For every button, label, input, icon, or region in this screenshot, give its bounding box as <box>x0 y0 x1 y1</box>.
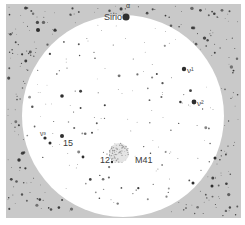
faint-star <box>224 125 225 126</box>
faint-star <box>16 96 17 97</box>
faint-star <box>37 84 38 85</box>
faint-star <box>123 13 124 14</box>
faint-star <box>8 197 9 198</box>
faint-star <box>145 52 146 53</box>
faint-star <box>214 52 216 54</box>
faint-star <box>66 188 67 189</box>
faint-star <box>15 180 18 183</box>
faint-star <box>69 165 70 166</box>
faint-star <box>9 33 12 36</box>
faint-star <box>196 206 199 209</box>
bright-star-star-a <box>36 28 40 32</box>
cluster-star <box>121 155 122 156</box>
faint-star <box>143 71 144 72</box>
cluster-star <box>111 148 112 149</box>
faint-star <box>12 53 13 54</box>
faint-star <box>217 164 218 165</box>
faint-star <box>75 91 76 92</box>
faint-star <box>48 207 50 209</box>
faint-star <box>237 21 238 22</box>
faint-star <box>209 161 211 163</box>
faint-star <box>84 133 87 136</box>
faint-star <box>15 29 16 30</box>
cluster-star <box>111 155 112 156</box>
faint-star <box>19 167 21 169</box>
faint-star <box>215 204 216 205</box>
faint-star <box>12 195 13 196</box>
faint-star <box>59 70 60 71</box>
faint-star <box>204 126 207 129</box>
faint-star <box>226 39 227 40</box>
faint-star <box>118 74 121 77</box>
faint-star <box>194 213 195 214</box>
faint-star <box>193 42 194 43</box>
cluster-star <box>116 145 117 146</box>
cluster-star <box>121 153 122 154</box>
faint-star <box>169 43 170 44</box>
cluster-star <box>113 155 114 156</box>
faint-star <box>188 180 190 182</box>
faint-star <box>168 16 170 18</box>
faint-star <box>31 182 32 183</box>
cluster-star <box>121 145 122 146</box>
cluster-star <box>112 158 113 159</box>
faint-star <box>137 122 138 123</box>
faint-star <box>118 89 119 90</box>
faint-star <box>203 213 204 214</box>
faint-star <box>105 68 106 69</box>
faint-star <box>27 26 28 27</box>
cluster-star <box>113 147 114 148</box>
faint-star <box>24 167 26 169</box>
label-nu3: ν³ <box>40 130 47 137</box>
cluster-star <box>116 159 117 160</box>
faint-star <box>35 52 36 53</box>
faint-star <box>8 33 9 34</box>
faint-star <box>165 31 166 32</box>
faint-star <box>21 63 22 64</box>
faint-star <box>23 22 24 23</box>
faint-star <box>15 203 16 204</box>
faint-star <box>40 116 41 117</box>
faint-star <box>50 208 53 211</box>
faint-star <box>132 193 133 194</box>
faint-star <box>125 38 126 39</box>
cluster-star <box>128 154 129 155</box>
faint-star <box>29 192 30 193</box>
faint-star <box>75 22 76 23</box>
faint-star <box>205 9 206 10</box>
faint-star <box>30 55 31 56</box>
faint-star <box>153 140 154 141</box>
faint-star <box>178 26 180 28</box>
faint-star <box>36 21 39 24</box>
faint-star <box>152 8 154 10</box>
faint-star <box>121 187 123 189</box>
faint-star <box>9 7 10 8</box>
faint-star <box>171 77 172 78</box>
faint-star <box>21 53 23 55</box>
faint-star <box>216 16 218 18</box>
faint-star <box>11 167 12 168</box>
cluster-star <box>115 148 116 149</box>
faint-star <box>35 204 38 207</box>
cluster-star <box>109 150 110 151</box>
cluster-star <box>117 158 119 160</box>
cluster-star <box>114 158 115 159</box>
faint-star <box>218 196 219 197</box>
faint-star <box>52 29 53 30</box>
faint-star <box>169 179 170 180</box>
faint-star <box>175 39 176 40</box>
faint-star <box>73 127 75 129</box>
faint-star <box>40 184 41 185</box>
faint-star <box>42 157 43 158</box>
faint-star <box>227 145 228 146</box>
faint-star <box>29 50 32 53</box>
faint-star <box>136 73 138 75</box>
cluster-star <box>118 161 119 162</box>
faint-star <box>11 123 12 124</box>
faint-star <box>40 92 41 93</box>
faint-star <box>195 43 198 46</box>
faint-star <box>85 183 87 185</box>
faint-star <box>76 168 77 169</box>
label-m41: M41 <box>135 155 153 165</box>
faint-star <box>190 106 191 107</box>
